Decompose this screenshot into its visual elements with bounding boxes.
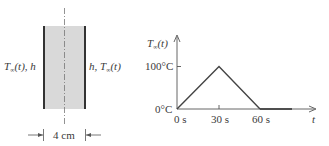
y-tick-label-0: 0°C bbox=[155, 103, 172, 115]
left-boundary-label: T∞(t), h bbox=[4, 60, 36, 73]
x-tick-label-60: 60 s bbox=[252, 113, 270, 125]
x-tick-label-0: 0 s bbox=[174, 113, 187, 125]
right-boundary-label: h, T∞(t) bbox=[89, 60, 121, 73]
arrow-right-icon bbox=[38, 133, 43, 137]
arrow-left-icon bbox=[86, 133, 91, 137]
thickness-dimension: 4 cm bbox=[28, 129, 101, 141]
x-tick-label-30: 30 s bbox=[211, 113, 229, 125]
temperature-chart: T∞(t) 100°C 0°C 0 s 30 s 60 s t bbox=[145, 35, 316, 125]
data-line bbox=[177, 67, 260, 110]
thickness-label: 4 cm bbox=[53, 129, 75, 141]
x-axis-label: t bbox=[312, 113, 316, 125]
slab-diagram: T∞(t), h h, T∞(t) 4 cm bbox=[4, 8, 121, 141]
y-tick-label-100: 100°C bbox=[145, 60, 173, 72]
figure-canvas: T∞(t), h h, T∞(t) 4 cm T∞(t) bbox=[0, 0, 329, 146]
y-axis-label: T∞(t) bbox=[147, 37, 168, 50]
